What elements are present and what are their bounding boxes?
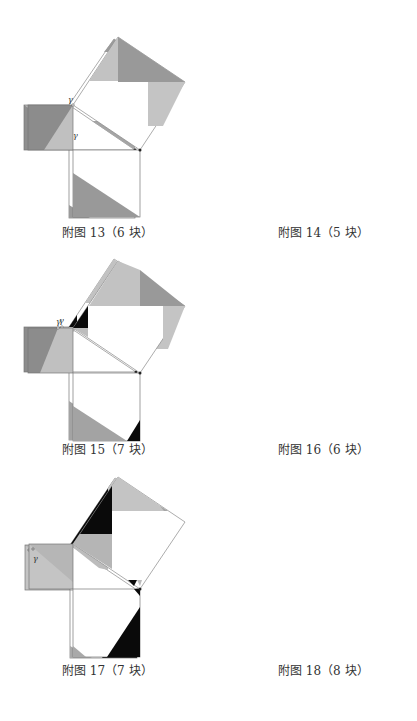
hypotenuse-square	[73, 477, 185, 589]
gamma-label: γ	[56, 317, 61, 326]
figure-14: γ	[28, 37, 348, 217]
leg-square	[73, 373, 140, 441]
gamma-point	[72, 104, 74, 106]
gamma-point	[57, 327, 59, 329]
right-angle-vertex-dot	[139, 149, 142, 152]
right-angle-vertex-dot	[139, 588, 142, 591]
figure-13-caption: 附图 13（6 块）	[62, 223, 153, 240]
hypotenuse-square	[73, 37, 348, 150]
small-square	[28, 328, 73, 373]
small-square	[28, 105, 73, 150]
figure-14-caption: 附图 14（5 块）	[278, 223, 369, 240]
gamma-label: γ	[73, 131, 78, 140]
gamma-label: γ	[68, 95, 73, 104]
leg-square	[73, 150, 140, 217]
gamma-label: γ	[33, 554, 38, 563]
figure-16-caption: 附图 16（6 块）	[278, 440, 369, 457]
figure-15-caption: 附图 15（7 块）	[62, 440, 153, 457]
figure-17-caption: 附图 17（7 块）	[62, 661, 153, 678]
figure-18-caption: 附图 18（8 块）	[278, 661, 369, 678]
right-angle-vertex-dot	[139, 372, 142, 375]
small-square	[29, 544, 73, 589]
figure-18: γ	[29, 477, 185, 657]
pythagorean-dissection-figures: γ γ	[0, 0, 417, 721]
leg-square	[73, 589, 140, 657]
hypotenuse-square	[73, 261, 185, 373]
